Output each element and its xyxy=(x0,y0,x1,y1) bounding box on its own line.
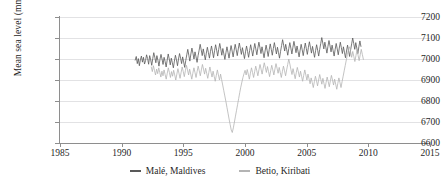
x-tick-mark xyxy=(307,144,308,147)
x-tick-mark xyxy=(122,144,123,147)
y-tick-mark xyxy=(55,17,59,18)
legend-dash-icon-male xyxy=(130,170,141,172)
x-tick-label: 1990 xyxy=(98,148,146,158)
y-tick-label: 6700 xyxy=(388,117,440,127)
y-tick-label: 6800 xyxy=(388,96,440,106)
legend-dash-icon-betio xyxy=(239,170,250,172)
x-tick-label: 2000 xyxy=(221,148,269,158)
chart-legend: Malé, Maldives Betio, Kiribati xyxy=(0,163,440,179)
y-tick-mark xyxy=(55,80,59,81)
y-tick-mark xyxy=(55,59,59,60)
x-tick-mark xyxy=(430,144,431,147)
y-axis-title: Mean sea level (mm) xyxy=(13,0,23,99)
x-tick-label: 2010 xyxy=(344,148,392,158)
x-tick-label: 1985 xyxy=(36,148,84,158)
y-tick-mark xyxy=(55,122,59,123)
series-container xyxy=(60,17,430,143)
x-tick-mark xyxy=(60,144,61,147)
y-tick-label: 7200 xyxy=(388,12,440,22)
legend-label-male: Malé, Maldives xyxy=(146,166,206,176)
legend-label-betio: Betio, Kiribati xyxy=(255,166,310,176)
y-tick-label: 7100 xyxy=(388,33,440,43)
x-tick-mark xyxy=(183,144,184,147)
y-tick-label: 6600 xyxy=(388,138,440,148)
x-tick-label: 2015 xyxy=(406,148,445,158)
x-tick-label: 1995 xyxy=(159,148,207,158)
y-tick-label: 7000 xyxy=(388,54,440,64)
x-tick-mark xyxy=(368,144,369,147)
x-tick-label: 2005 xyxy=(283,148,331,158)
legend-item-male: Malé, Maldives xyxy=(130,166,206,176)
series-line-male xyxy=(135,38,361,68)
y-tick-label: 6900 xyxy=(388,75,440,85)
y-tick-mark xyxy=(55,101,59,102)
y-tick-mark xyxy=(55,143,59,144)
y-tick-mark xyxy=(55,38,59,39)
x-tick-mark xyxy=(245,144,246,147)
legend-item-betio: Betio, Kiribati xyxy=(239,166,310,176)
